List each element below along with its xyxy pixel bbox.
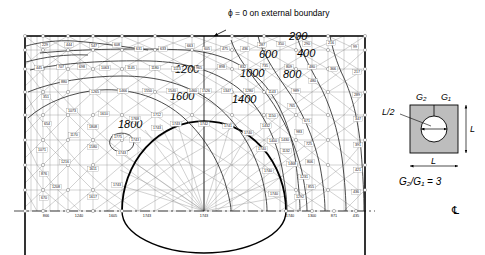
nodal-value: 725	[305, 142, 314, 147]
nodal-value: 436	[241, 47, 250, 52]
nodal-value: 480	[309, 79, 318, 84]
nodal-value: 605	[203, 47, 212, 52]
nodal-value: 671	[303, 119, 312, 124]
nodal-value: 1432	[261, 124, 272, 129]
nodal-value: 1150	[267, 114, 278, 119]
inset-label-l-right: L	[470, 124, 475, 134]
nodal-value: 1231	[299, 175, 310, 180]
nodal-value: 1466	[118, 89, 129, 94]
nodal-value-text: 1231	[300, 175, 308, 179]
nodal-value-text: 707	[58, 65, 64, 69]
nodal-value: 1460	[188, 89, 199, 94]
nodal-value-text: 436	[242, 47, 248, 51]
bottom-axis-value: 1240	[75, 214, 83, 218]
nodal-value: 1400	[268, 139, 279, 144]
nodal-value: 444	[65, 43, 74, 48]
nodal-value: 1073	[67, 109, 78, 114]
nodal-value: 698	[78, 65, 87, 70]
nodal-value-text: 633	[160, 47, 166, 51]
nodal-value-text: 1540	[168, 89, 176, 93]
nodal-value-text: 1280	[245, 89, 253, 93]
nodal-value: 350	[277, 42, 286, 47]
external-boundary-annotation: ϕ = 0 on external boundary	[228, 8, 330, 18]
nodal-value: 806	[306, 160, 315, 165]
nodal-value: 391	[354, 143, 363, 148]
bottom-axis-value: 1743	[143, 214, 151, 218]
bottom-axis-value: 1300	[308, 214, 316, 218]
nodal-value-text: 1580	[89, 145, 97, 149]
nodal-value-text: 1743	[118, 151, 126, 155]
nodal-value: 1113	[172, 67, 183, 72]
bottom-axis-value: 1605	[109, 214, 117, 218]
nodal-value-text: 765	[289, 104, 295, 108]
nodal-value-text: 347	[355, 117, 361, 121]
nodal-value-text: 350	[278, 42, 284, 46]
inset-geometry-diagram: L/2 G₂ G₁ L L G₂/G₁ = 3	[382, 92, 475, 187]
nodal-value: 989	[292, 89, 301, 94]
nodal-value-text: 809	[286, 65, 292, 69]
inset-label-half-l: L/2	[382, 107, 395, 117]
nodal-value: 1550	[143, 89, 154, 94]
nodal-value: 547	[90, 44, 99, 49]
nodal-value-text: 547	[91, 44, 97, 48]
nodal-value-text: 480	[310, 79, 316, 83]
nodal-value-text: 217	[354, 70, 360, 74]
nodal-value-text: 1743	[131, 138, 139, 142]
nodal-value-text: 654	[44, 122, 50, 126]
nodal-value: 633	[159, 47, 168, 52]
nodal-value: 1265	[90, 90, 101, 95]
nodal-value-text: 1170	[70, 133, 78, 137]
nodal-value-text: 229	[42, 43, 48, 47]
nodal-value-text: 1741	[224, 124, 232, 128]
nodal-value-text: 698	[79, 65, 85, 69]
nodal-value: 898	[218, 65, 227, 70]
nodal-value-text: 1740	[264, 169, 272, 173]
nodal-value: 475	[221, 47, 230, 52]
nodal-value-text: 1526	[202, 89, 210, 93]
nodal-value: 216	[327, 41, 336, 46]
nodal-value-text: 608	[114, 43, 120, 47]
nodal-value: 1610	[99, 112, 110, 117]
nodal-value-text: 898	[219, 65, 225, 69]
nodal-value: 735	[261, 64, 270, 69]
nodal-value-text: 1468	[288, 162, 296, 166]
nodal-value: 765	[288, 104, 297, 109]
nodal-value-text: 1617	[89, 195, 97, 199]
nodal-value-text: 1073	[68, 109, 76, 113]
nodal-value-text: 663	[187, 44, 193, 48]
nodal-value: 1292	[295, 195, 306, 200]
nodal-value: 445	[35, 66, 44, 71]
nodal-value-text: 1265	[91, 90, 99, 94]
nodal-value-text: 1400	[269, 139, 277, 143]
centerline-symbol: ℄	[451, 204, 459, 216]
nodal-value-text: 1743	[113, 183, 121, 187]
nodal-value: 1170	[69, 133, 80, 138]
nodal-value-text: 1550	[144, 89, 152, 93]
nodal-value-text: 421	[355, 168, 361, 172]
nodal-value: 1132	[281, 149, 292, 154]
nodal-value: 1712	[152, 113, 163, 118]
nodal-value: 1208	[51, 185, 62, 190]
bottom-axis-value: 435	[353, 214, 359, 218]
nodal-value: 832	[239, 65, 248, 70]
nodal-value-text: 1460	[189, 89, 197, 93]
figure-root: ϕ = 0 on external boundary 2004006008001…	[0, 0, 485, 255]
nodal-value-text: 631	[136, 47, 142, 51]
nodal-value-text: 480	[309, 65, 315, 69]
nodal-value-text: 983	[296, 130, 302, 134]
top-annotation-group: ϕ = 0 on external boundary	[214, 8, 330, 36]
nodal-value: 1740	[243, 131, 254, 136]
nodal-value-text: 436	[353, 190, 359, 194]
nodal-value: 1145	[126, 66, 137, 71]
nodal-value-text: 880	[61, 80, 67, 84]
nodal-value: 436	[352, 190, 361, 195]
nodal-value-text: 366	[330, 67, 336, 71]
nodal-value-text: 806	[307, 160, 313, 164]
nodal-value: 1143	[267, 90, 278, 95]
bottom-axis-value: 871	[331, 214, 337, 218]
nodal-value-text: 444	[66, 43, 72, 47]
nodal-value-text: 1775	[114, 135, 122, 139]
nodal-value: 965	[195, 66, 204, 71]
nodal-value: 1180	[150, 66, 161, 71]
nodal-value: 421	[354, 168, 363, 173]
